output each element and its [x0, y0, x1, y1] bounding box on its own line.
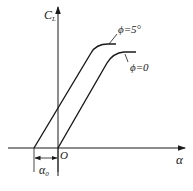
- y-axis-label: CL: [44, 9, 56, 23]
- y-axis-label-sub: L: [52, 15, 56, 23]
- curve-label-phi-5: ϕ=5°: [118, 24, 141, 35]
- leader-phi-5: [109, 34, 117, 44]
- alpha0-label: α0: [39, 164, 49, 178]
- curve-phi-0: [58, 52, 136, 148]
- origin-label: O: [60, 150, 68, 161]
- x-axis-label: α: [176, 153, 183, 166]
- y-axis-label-main: C: [44, 8, 52, 22]
- leader-phi-0: [125, 54, 128, 62]
- curve-label-phi-0: ϕ=0: [130, 62, 149, 73]
- alpha0-label-sub: 0: [45, 170, 49, 178]
- diagram-graphics: [0, 0, 193, 191]
- lift-curve-diagram: CL ϕ=5° ϕ=0 O α α0: [0, 0, 193, 191]
- curve-phi-5: [34, 44, 116, 148]
